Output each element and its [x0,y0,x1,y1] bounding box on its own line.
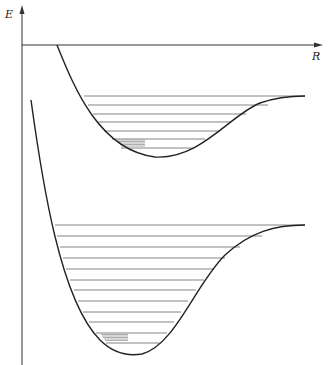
excited-state-curve [57,45,305,157]
diagram-canvas [0,0,330,365]
ground-state-shaded-levels [101,335,128,341]
ground-state-curve [31,100,305,355]
ground-state-levels [55,225,305,343]
distance-axis-label: R [312,50,320,63]
potential-energy-diagram: E R [0,0,330,365]
energy-axis-label: E [5,8,13,21]
axes [20,5,324,365]
energy-axis-arrow-icon [20,5,25,14]
distance-axis-arrow-icon [314,43,323,48]
